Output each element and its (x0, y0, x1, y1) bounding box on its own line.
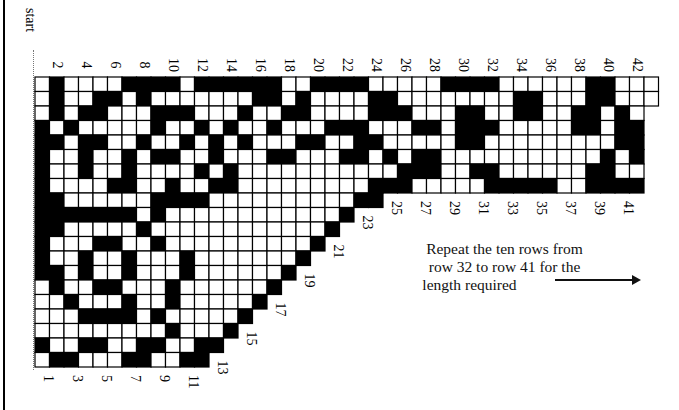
empty-cell (311, 193, 326, 208)
empty-cell (398, 77, 413, 92)
row-number-label: 1 (41, 375, 56, 382)
empty-cell (296, 222, 311, 237)
empty-cell (296, 77, 311, 92)
empty-cell (209, 208, 224, 223)
empty-cell (427, 92, 442, 107)
empty-cell (209, 324, 224, 339)
filled-cell (79, 338, 94, 353)
empty-cell (35, 92, 50, 107)
empty-cell (122, 193, 137, 208)
filled-cell (122, 309, 137, 324)
filled-cell (253, 77, 268, 92)
row-number-label: 23 (360, 216, 375, 230)
empty-cell (528, 121, 543, 136)
filled-cell (195, 164, 210, 179)
filled-cell (79, 150, 94, 165)
filled-cell (122, 353, 137, 368)
empty-cell (615, 150, 630, 165)
filled-cell (35, 237, 50, 252)
empty-cell (93, 121, 108, 136)
row-number-label: 29 (447, 201, 462, 215)
filled-cell (224, 179, 239, 194)
row-number-label: 8 (137, 62, 152, 69)
empty-cell (441, 106, 456, 121)
filled-cell (601, 92, 616, 107)
filled-cell (79, 266, 94, 281)
empty-cell (485, 135, 500, 150)
empty-cell (108, 324, 123, 339)
empty-cell (253, 251, 268, 266)
empty-cell (441, 92, 456, 107)
filled-cell (238, 106, 253, 121)
empty-cell (557, 150, 572, 165)
filled-cell (108, 280, 123, 295)
empty-cell (369, 121, 384, 136)
filled-cell (369, 106, 384, 121)
filled-cell (615, 135, 630, 150)
row-number-label: 11 (186, 375, 201, 388)
filled-cell (282, 266, 297, 281)
filled-cell (137, 92, 152, 107)
empty-cell (499, 106, 514, 121)
empty-cell (267, 106, 282, 121)
empty-cell (195, 295, 210, 310)
row-number-label: 35 (534, 201, 549, 215)
filled-cell (470, 135, 485, 150)
empty-cell (296, 237, 311, 252)
row-number-label: 32 (485, 58, 500, 72)
empty-cell (64, 237, 79, 252)
row-number-label: 42 (630, 58, 645, 72)
row-number-label: 14 (224, 58, 239, 72)
filled-cell (93, 237, 108, 252)
row-number-label: 6 (108, 62, 123, 69)
filled-cell (50, 208, 65, 223)
filled-cell (514, 179, 529, 194)
empty-cell (615, 164, 630, 179)
empty-cell (50, 121, 65, 136)
filled-cell (586, 121, 601, 136)
empty-cell (108, 222, 123, 237)
filled-cell (50, 77, 65, 92)
row-number-label: 38 (572, 58, 587, 72)
empty-cell (137, 280, 152, 295)
empty-cell (456, 164, 471, 179)
empty-cell (267, 193, 282, 208)
empty-cell (340, 193, 355, 208)
empty-cell (543, 121, 558, 136)
empty-cell (122, 324, 137, 339)
empty-cell (93, 251, 108, 266)
row-number-label: 12 (195, 58, 210, 72)
filled-cell (543, 179, 558, 194)
empty-cell (180, 280, 195, 295)
empty-cell (238, 222, 253, 237)
empty-cell (151, 295, 166, 310)
filled-cell (586, 92, 601, 107)
empty-cell (93, 150, 108, 165)
filled-cell (108, 92, 123, 107)
filled-cell (166, 324, 181, 339)
empty-cell (543, 150, 558, 165)
empty-cell (325, 208, 340, 223)
filled-cell (514, 106, 529, 121)
empty-cell (267, 208, 282, 223)
filled-cell (238, 309, 253, 324)
filled-cell (180, 251, 195, 266)
empty-cell (209, 295, 224, 310)
filled-cell (311, 135, 326, 150)
empty-cell (224, 280, 239, 295)
filled-cell (586, 77, 601, 92)
row-number-label: 9 (157, 375, 172, 382)
filled-cell (195, 193, 210, 208)
empty-cell (499, 92, 514, 107)
empty-cell (557, 179, 572, 194)
empty-cell (383, 121, 398, 136)
filled-cell (282, 150, 297, 165)
filled-cell (253, 295, 268, 310)
empty-cell (398, 150, 413, 165)
row-number-label: 28 (427, 58, 442, 72)
row-number-label: 3 (70, 375, 85, 382)
filled-cell (325, 121, 340, 136)
empty-cell (79, 324, 94, 339)
filled-cell (398, 164, 413, 179)
empty-cell (485, 92, 500, 107)
